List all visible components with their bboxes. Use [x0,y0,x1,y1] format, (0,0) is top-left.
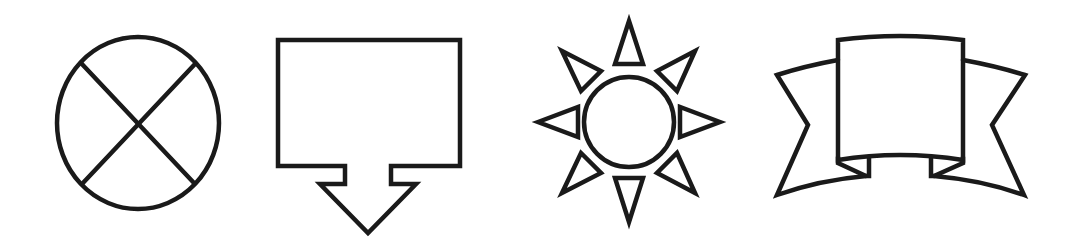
arrow-callout-icon [278,40,460,233]
circle-x-icon [57,37,219,209]
banner-ribbon-icon [777,36,1025,195]
sun-icon [538,21,720,222]
shapes-svg [0,0,1076,251]
shapes-canvas [0,0,1076,251]
